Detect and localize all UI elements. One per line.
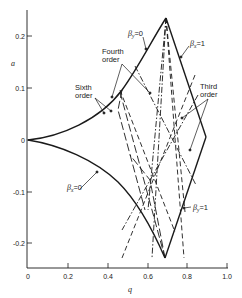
- sixth-order-line-1: [118, 90, 145, 210]
- third-order-line-1: [166, 18, 184, 258]
- boundary-beta-x-0: [28, 140, 165, 258]
- third-order-line-4: [120, 90, 175, 232]
- y-axis-label: a: [11, 59, 15, 68]
- stability-diagram: 0.2 0.1 0 -0.1 -0.2 0 0.2 0.4 0.6 0.8 1.…: [0, 0, 242, 298]
- boundary-beta-y-1: [165, 137, 206, 258]
- axes: [27, 10, 228, 268]
- fourth-order-line-1: [152, 18, 166, 258]
- x-tick-0.6: 0.6: [143, 273, 153, 280]
- y-tick-0: 0: [21, 137, 25, 144]
- sixth-order-line-2: [120, 92, 165, 258]
- boundary-beta-y-0: [28, 18, 166, 140]
- label-beta-y-0: βy=0: [127, 29, 143, 39]
- y-tick-neg0.2: -0.2: [13, 240, 25, 247]
- fourth-order-line-3: [135, 66, 196, 185]
- label-sixth-order-line2: order: [75, 91, 93, 100]
- y-tick-0.2: 0.2: [15, 33, 25, 40]
- resonance-lines: [118, 18, 198, 258]
- label-beta-y-1: βy=1: [192, 203, 208, 213]
- label-fourth-order-line2: order: [102, 55, 120, 64]
- label-beta-x-1: βx=1: [189, 39, 205, 49]
- annotation-pointers: [80, 37, 208, 209]
- x-tick-0: 0: [26, 273, 30, 280]
- label-third-order-line2: order: [200, 90, 218, 99]
- x-tick-0.4: 0.4: [103, 273, 113, 280]
- fourth-order-line-2: [148, 18, 166, 210]
- x-tick-0.8: 0.8: [182, 273, 192, 280]
- annotations: βy=0 βx=1 Fourth order Sixth order Third…: [66, 29, 218, 213]
- x-tick-1.0: 1.0: [222, 273, 232, 280]
- y-tick-0.1: 0.1: [15, 85, 25, 92]
- y-tick-neg0.1: -0.1: [13, 189, 25, 196]
- x-tick-0.2: 0.2: [63, 273, 73, 280]
- x-tick-labels: 0 0.2 0.4 0.6 0.8 1.0: [26, 273, 232, 280]
- label-beta-x-0: βx=0: [66, 183, 82, 193]
- x-axis-label: q: [128, 285, 132, 294]
